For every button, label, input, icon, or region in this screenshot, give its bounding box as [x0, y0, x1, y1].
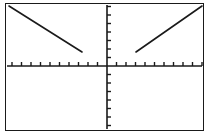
graphing-calculator-screenshot: [0, 0, 210, 137]
series-right-branch: [136, 6, 202, 52]
graph-plot-area[interactable]: [0, 0, 210, 137]
plotted-line-segments: [9, 6, 202, 52]
series-left-branch: [9, 6, 82, 52]
